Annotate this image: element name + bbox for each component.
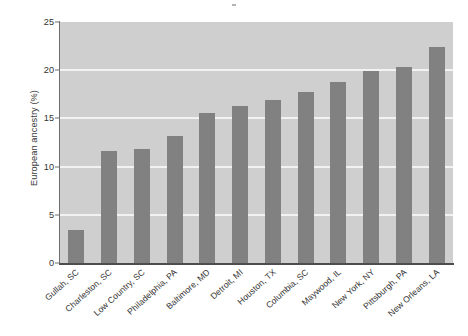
bar-slot — [355, 22, 388, 263]
y-tick-mark — [55, 118, 60, 119]
y-tick-label: 10 — [30, 162, 54, 172]
bar — [330, 82, 346, 263]
bar — [134, 149, 150, 263]
bar-slot — [126, 22, 159, 263]
bar-chart-figure: European ancestry (%) 0510152025 Gullah,… — [0, 0, 468, 336]
bars-container — [60, 22, 453, 263]
bar-slot — [322, 22, 355, 263]
y-tick-mark — [55, 263, 60, 264]
bar — [396, 67, 412, 263]
bar — [167, 136, 183, 263]
bar — [298, 92, 314, 263]
bar — [199, 113, 215, 263]
bar — [363, 71, 379, 263]
bar-slot — [420, 22, 453, 263]
y-tick-label: 5 — [30, 210, 54, 220]
bar — [265, 100, 281, 263]
bar — [68, 230, 84, 263]
y-tick-label: 20 — [30, 65, 54, 75]
bar — [232, 106, 248, 263]
y-axis-tick-labels: 0510152025 — [30, 0, 54, 336]
bar-slot — [388, 22, 421, 263]
bar-slot — [289, 22, 322, 263]
plot-area — [60, 22, 453, 263]
y-tick-mark — [55, 70, 60, 71]
bar — [429, 47, 445, 263]
bar-slot — [60, 22, 93, 263]
y-tick-mark — [55, 166, 60, 167]
y-tick-label: 0 — [30, 258, 54, 268]
bar-slot — [224, 22, 257, 263]
bar-slot — [158, 22, 191, 263]
x-axis-tick-labels: Gullah, SCCharleston, SCLow Country, SCP… — [60, 265, 453, 336]
y-tick-mark — [55, 214, 60, 215]
bar-slot — [191, 22, 224, 263]
bar-slot — [257, 22, 290, 263]
stray-mark — [232, 4, 236, 6]
bar-slot — [93, 22, 126, 263]
y-tick-label: 15 — [30, 113, 54, 123]
y-tick-label: 25 — [30, 17, 54, 27]
bar — [101, 151, 117, 263]
y-tick-mark — [55, 22, 60, 23]
